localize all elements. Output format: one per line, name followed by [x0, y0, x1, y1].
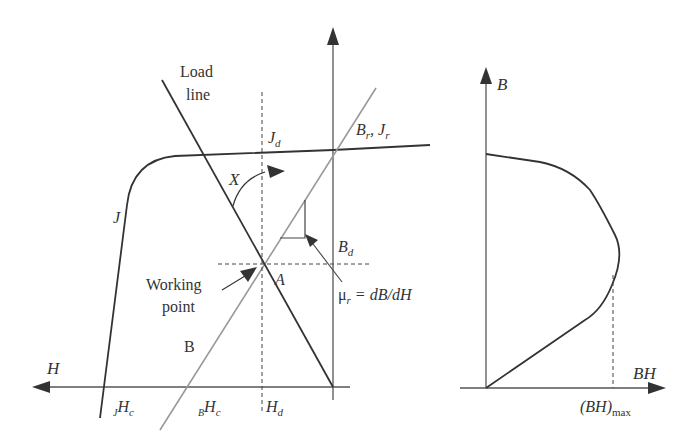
load-line-label-2: line — [186, 86, 210, 103]
hd-label: Hd — [265, 398, 284, 418]
working-point-pointer-line — [222, 276, 245, 290]
right-bh-axis-label: BH — [633, 364, 657, 383]
working-point-label-1: Working — [146, 276, 202, 294]
load-line-label-1: Load — [180, 63, 213, 80]
right-panel: B BH (BH)max — [460, 67, 666, 418]
right-b-axis-label: B — [497, 75, 508, 94]
bhc-label: BHc — [198, 398, 221, 418]
left-panel: Load line Jd Br, Jr X J Bd Working point… — [32, 27, 430, 430]
mu-r-label: μr = dB/dH — [338, 286, 413, 306]
bh-diagram: Load line Jd Br, Jr X J Bd Working point… — [0, 0, 689, 445]
b-axis-arrow-icon — [327, 27, 339, 45]
br-jr-label: Br, Jr — [356, 121, 390, 141]
mu-pointer-arrow-icon — [305, 234, 318, 247]
right-bh-axis-arrow-icon — [648, 382, 666, 394]
jhc-label: JHc — [113, 398, 134, 418]
bd-label: Bd — [338, 238, 354, 258]
point-a-label: A — [274, 271, 285, 288]
h-axis-arrow-icon — [32, 381, 50, 393]
b-curve-label: B — [184, 338, 195, 355]
working-point-label-2: point — [162, 298, 195, 316]
angle-x-label: X — [228, 170, 240, 189]
h-axis-label: H — [46, 359, 61, 378]
angle-x-arrow-icon — [267, 165, 285, 178]
j-curve-label: J — [113, 209, 121, 226]
jd-label: Jd — [268, 129, 281, 149]
bh-energy-curve — [486, 154, 619, 388]
bh-max-label: (BH)max — [580, 398, 631, 418]
right-b-axis-arrow-icon — [480, 67, 492, 84]
